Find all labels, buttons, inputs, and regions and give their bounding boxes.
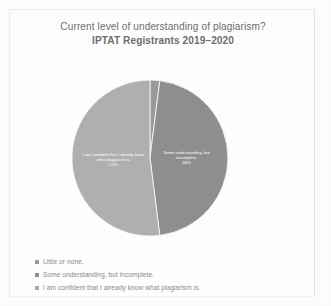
legend-item-little-or-none: Little or none. [35,255,305,267]
legend-item-confident: I am confident that I already know what … [35,281,305,293]
chart-legend: Little or none. Some understanding, but … [35,255,305,294]
legend-swatch-icon [35,286,39,290]
pie-slice-percent: 46% [182,160,191,165]
legend-swatch-icon [35,260,39,264]
legend-item-some-understanding: Some understanding, but incomplete. [35,268,305,280]
scanned-page: Current level of understanding of plagia… [0,0,331,306]
pie-slice-percent: 52% [109,162,118,167]
legend-item-label: I am confident that I already know what … [43,284,200,291]
pie-slice-group [72,80,228,236]
legend-item-label: Little or none. [43,258,84,265]
legend-swatch-icon [35,273,39,277]
legend-item-label: Some understanding, but incomplete. [43,271,154,278]
